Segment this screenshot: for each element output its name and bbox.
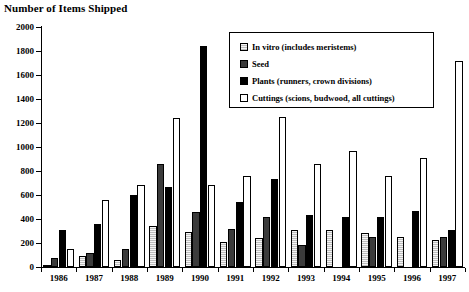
y-axis-tick-label: 0 — [2, 263, 34, 272]
bar-group — [79, 27, 110, 267]
legend-item: Cuttings (scions, budwood, all cuttings) — [240, 92, 395, 104]
bar — [51, 258, 58, 267]
bar — [412, 211, 419, 267]
x-axis-label: 1997 — [430, 273, 465, 283]
y-axis-tick — [36, 243, 41, 244]
bar — [298, 245, 305, 267]
bar — [185, 232, 192, 267]
y-axis-tick — [36, 195, 41, 196]
bar — [228, 229, 235, 267]
bar — [86, 253, 93, 267]
x-axis-tick — [394, 268, 395, 272]
y-axis-tick-label: 1200 — [2, 119, 34, 128]
legend-label: Plants (runners, crown divisions) — [252, 77, 372, 86]
bar — [349, 151, 356, 267]
bar — [448, 230, 455, 267]
x-axis-label: 1993 — [288, 273, 323, 283]
y-axis-tick-label: 2000 — [2, 23, 34, 32]
x-axis-tick — [147, 268, 148, 272]
x-axis-label: 1987 — [76, 273, 111, 283]
bar — [220, 242, 227, 267]
bar — [243, 176, 250, 267]
bar — [200, 46, 207, 267]
y-axis-tick — [36, 75, 41, 76]
x-axis-tick — [182, 268, 183, 272]
bar — [79, 256, 86, 267]
bar — [137, 185, 144, 267]
bar — [369, 237, 376, 267]
legend-label: Cuttings (scions, budwood, all cuttings) — [252, 94, 395, 103]
bar-group — [185, 27, 216, 267]
y-axis-tick-label: 200 — [2, 239, 34, 248]
bar — [440, 237, 447, 267]
x-axis-label: 1989 — [147, 273, 182, 283]
bar — [377, 217, 384, 267]
y-axis-tick-label: 600 — [2, 191, 34, 200]
bar — [208, 185, 215, 267]
legend-item: Plants (runners, crown divisions) — [240, 75, 372, 87]
x-axis-label: 1988 — [112, 273, 147, 283]
legend-swatch-invitro — [240, 43, 248, 51]
y-axis-tick-label: 400 — [2, 215, 34, 224]
x-axis-tick — [324, 268, 325, 272]
bar — [432, 240, 439, 267]
x-axis-tick — [253, 268, 254, 272]
legend-label: In vitro (includes meristems) — [252, 43, 356, 52]
x-axis-tick — [430, 268, 431, 272]
bar — [326, 230, 333, 267]
bar-group — [43, 27, 74, 267]
bar — [94, 224, 101, 267]
y-axis-tick — [36, 123, 41, 124]
x-axis-tick — [41, 268, 42, 272]
y-axis-tick — [36, 99, 41, 100]
bar — [102, 200, 109, 267]
y-axis-tick — [36, 171, 41, 172]
legend-swatch-seed — [240, 60, 248, 68]
bar — [149, 226, 156, 267]
y-axis-tick — [36, 51, 41, 52]
bar — [306, 215, 313, 267]
x-axis-label: 1991 — [218, 273, 253, 283]
legend-swatch-plants — [240, 77, 248, 85]
page-title: Number of Items Shipped — [4, 2, 127, 14]
x-axis-tick — [112, 268, 113, 272]
bar — [67, 249, 74, 267]
x-axis-tick — [288, 268, 289, 272]
y-axis-line — [41, 26, 42, 268]
y-axis-tick-label: 1400 — [2, 95, 34, 104]
y-axis-tick-label: 1600 — [2, 71, 34, 80]
bar — [291, 230, 298, 267]
y-axis-tick — [36, 147, 41, 148]
bar-group — [432, 27, 463, 267]
x-axis-label: 1995 — [359, 273, 394, 283]
x-axis-label: 1986 — [41, 273, 76, 283]
bar — [43, 265, 50, 267]
bar — [114, 260, 121, 267]
bar — [342, 217, 349, 267]
bar — [271, 179, 278, 267]
bar — [173, 118, 180, 267]
bar — [236, 202, 243, 267]
bar — [255, 238, 262, 267]
y-axis-tick-label: 1000 — [2, 143, 34, 152]
x-axis-label: 1996 — [394, 273, 429, 283]
bar — [130, 195, 137, 267]
x-axis-tick — [359, 268, 360, 272]
legend-item: Seed — [240, 58, 269, 70]
bar — [122, 249, 129, 267]
x-axis-label: 1994 — [324, 273, 359, 283]
bar — [361, 233, 368, 267]
bar — [314, 164, 321, 267]
x-axis-tick — [218, 268, 219, 272]
x-axis-label: 1990 — [182, 273, 217, 283]
bar — [279, 117, 286, 267]
legend-swatch-cuttings — [240, 94, 248, 102]
bar — [420, 158, 427, 267]
legend: In vitro (includes meristems)SeedPlants … — [229, 32, 434, 108]
bar-group — [149, 27, 180, 267]
legend-item: In vitro (includes meristems) — [240, 41, 356, 53]
bar — [157, 164, 164, 267]
x-axis-label: 1992 — [253, 273, 288, 283]
chart-page: Number of Items Shipped 2000180016001400… — [0, 0, 469, 292]
bar — [192, 212, 199, 267]
